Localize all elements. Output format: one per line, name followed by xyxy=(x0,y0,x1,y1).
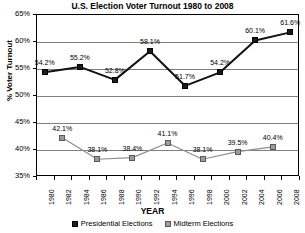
y-axis-tick-label: 35% xyxy=(0,172,30,180)
legend-swatch-icon xyxy=(72,221,78,227)
x-axis-tick-mark xyxy=(71,176,72,180)
chart-legend: Presidential ElectionsMidterm Elections xyxy=(0,219,305,228)
x-axis-tick-mark xyxy=(124,176,125,180)
data-label-midterm-1994: 41.1% xyxy=(158,130,178,138)
data-label-presidential-1988: 52.8% xyxy=(105,67,125,75)
data-point-midterm-1982 xyxy=(59,135,65,141)
data-point-presidential-1980 xyxy=(42,69,48,75)
data-point-presidential-1988 xyxy=(112,77,118,83)
data-point-midterm-2002 xyxy=(235,149,241,155)
data-label-presidential-1980: 54.2% xyxy=(35,59,55,67)
x-axis-tick-mark xyxy=(211,176,212,180)
data-label-midterm-1990: 38.4% xyxy=(122,145,142,153)
data-label-presidential-1984: 55.2% xyxy=(70,54,90,62)
data-point-midterm-1990 xyxy=(129,155,135,161)
x-axis-tick-label: 1992 xyxy=(153,189,160,205)
x-axis-tick-label: 1996 xyxy=(188,189,195,205)
x-axis-tick-label: 1986 xyxy=(100,189,107,205)
x-axis-tick-label: 1994 xyxy=(171,189,178,205)
data-label-presidential-2000: 54.2% xyxy=(210,59,230,67)
x-axis-tick-mark xyxy=(106,176,107,180)
x-axis-tick-label: 1988 xyxy=(118,189,125,205)
x-axis-tick-mark xyxy=(54,176,55,180)
data-label-presidential-2008: 61.6% xyxy=(280,19,300,27)
legend-item-presidential[interactable]: Presidential Elections xyxy=(72,219,153,228)
chart-title: U.S. Election Voter Turnout 1980 to 2008 xyxy=(0,1,305,11)
x-axis-tick-label: 2000 xyxy=(223,189,230,205)
x-axis-tick-mark xyxy=(264,176,265,180)
data-point-presidential-2004 xyxy=(252,37,258,43)
y-axis-tick-label: 45% xyxy=(0,118,30,126)
series-lines xyxy=(36,14,299,176)
data-point-presidential-1992 xyxy=(147,48,153,54)
x-axis-tick-label: 2002 xyxy=(241,189,248,205)
x-axis-tick-label: 1998 xyxy=(206,189,213,205)
x-axis-tick-label: 1980 xyxy=(48,189,55,205)
chart-container: U.S. Election Voter Turnout 1980 to 2008… xyxy=(0,0,305,233)
data-label-presidential-1992: 58.1% xyxy=(140,38,160,46)
data-point-midterm-1998 xyxy=(200,156,206,162)
x-axis-tick-label: 2004 xyxy=(258,189,265,205)
data-label-midterm-2006: 40.4% xyxy=(263,134,283,142)
x-axis-tick-mark xyxy=(141,176,142,180)
y-axis-tick-label: 40% xyxy=(0,145,30,153)
data-point-presidential-1996 xyxy=(182,83,188,89)
x-axis-tick-mark xyxy=(36,176,37,180)
data-label-presidential-1996: 51.7% xyxy=(175,73,195,81)
data-label-midterm-1982: 42.1% xyxy=(52,125,72,133)
data-point-midterm-2006 xyxy=(270,144,276,150)
data-label-presidential-2004: 60.1% xyxy=(245,27,265,35)
x-axis-tick-mark xyxy=(229,176,230,180)
y-axis-tick-label: 60% xyxy=(0,37,30,45)
x-axis-tick-label: 1982 xyxy=(65,189,72,205)
data-point-presidential-2000 xyxy=(217,69,223,75)
data-label-midterm-1986: 38.1% xyxy=(87,146,107,154)
data-point-midterm-1994 xyxy=(165,140,171,146)
legend-label: Presidential Elections xyxy=(81,219,153,228)
x-axis-tick-mark xyxy=(246,176,247,180)
x-axis-tick-mark xyxy=(281,176,282,180)
y-axis-tick-label: 55% xyxy=(0,64,30,72)
x-axis-tick-mark xyxy=(89,176,90,180)
y-axis-tick-label: 50% xyxy=(0,91,30,99)
x-axis-tick-mark xyxy=(299,176,300,180)
data-point-presidential-1984 xyxy=(77,64,83,70)
x-axis-tick-mark xyxy=(159,176,160,180)
legend-label: Midterm Elections xyxy=(174,219,234,228)
legend-swatch-icon xyxy=(165,221,171,227)
x-axis-tick-label: 1990 xyxy=(135,189,142,205)
data-label-midterm-2002: 39.5% xyxy=(228,139,248,147)
data-point-presidential-2008 xyxy=(287,29,293,35)
x-axis-tick-label: 1984 xyxy=(83,189,90,205)
y-axis-tick-label: 65% xyxy=(0,10,30,18)
x-axis-tick-mark xyxy=(176,176,177,180)
x-axis-tick-label: 2008 xyxy=(293,189,300,205)
data-label-midterm-1998: 38.1% xyxy=(193,146,213,154)
data-point-midterm-1986 xyxy=(94,156,100,162)
x-axis-tick-label: 2006 xyxy=(276,189,283,205)
x-axis-tick-mark xyxy=(194,176,195,180)
x-axis-title: YEAR xyxy=(0,206,305,216)
legend-item-midterm[interactable]: Midterm Elections xyxy=(165,219,234,228)
